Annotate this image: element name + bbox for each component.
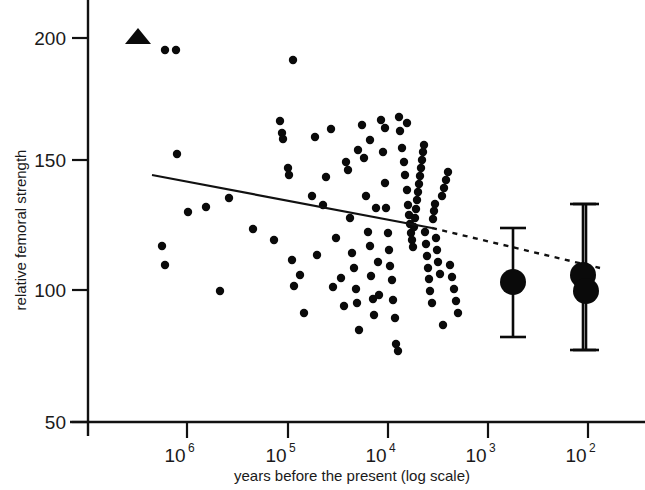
scatter-point (158, 242, 166, 250)
scatter-point (438, 192, 446, 200)
scatter-point (396, 127, 404, 135)
scatter-point (173, 150, 181, 158)
y-tick-label-50: 50 (45, 412, 66, 433)
y-tick-label-200: 200 (34, 28, 66, 49)
trend-line-solid (152, 175, 432, 228)
scatter-point (364, 228, 372, 236)
scatter-point (395, 113, 403, 121)
scatter-point (422, 240, 430, 248)
scatter-point (450, 285, 458, 293)
scatter-point (360, 154, 368, 162)
scatter-point (413, 196, 421, 204)
scatter-point (436, 270, 444, 278)
scatter-point (446, 261, 454, 269)
scatter-point (428, 299, 436, 307)
x-tick-exponent-1e6: 6 (188, 441, 195, 455)
scatter-point (421, 228, 429, 236)
scatter-point (398, 144, 406, 152)
scatter-point (425, 275, 433, 283)
scatter-point (452, 297, 460, 305)
scatter-point (433, 246, 441, 254)
scatter-point (161, 261, 169, 269)
scatter-point (388, 276, 396, 284)
x-tick-exponent-1e5: 5 (289, 441, 296, 455)
y-axis-ticks: 200 150 100 50 (34, 28, 88, 433)
scatter-point (279, 135, 287, 143)
x-tick-exponent-1e2: 2 (589, 441, 596, 455)
scatter-point (385, 246, 393, 254)
scatter-point (423, 252, 431, 260)
scatter-point (288, 256, 296, 264)
scatter-point (342, 158, 350, 166)
scatter-point (379, 148, 387, 156)
scatter-point (289, 56, 297, 64)
scatter-point (444, 168, 452, 176)
scatter-point (448, 273, 456, 281)
x-tick-base-1e5: 10 (265, 445, 286, 466)
x-tick-exponent-1e3: 3 (489, 441, 496, 455)
scatter-point (308, 192, 316, 200)
scatter-point (270, 236, 278, 244)
scatter-point (352, 285, 360, 293)
group-mean-marker (573, 278, 599, 304)
y-tick-label-100: 100 (34, 280, 66, 301)
scatter-point (374, 258, 382, 266)
scatter-point (348, 249, 356, 257)
scatter-point (400, 158, 408, 166)
scatter-plot-figure: relative femoral strength 200 150 100 50… (0, 0, 645, 490)
x-tick-label-1e6: 10 6 (164, 441, 195, 466)
scatter-point (354, 146, 362, 154)
scatter-point (313, 251, 321, 259)
x-tick-exponent-1e4: 4 (389, 441, 396, 455)
x-tick-label-1e5: 10 5 (265, 441, 296, 466)
scatter-points-layer (158, 46, 462, 355)
scatter-point (375, 291, 383, 299)
scatter-point (353, 299, 361, 307)
scatter-point (429, 215, 437, 223)
scatter-point (225, 194, 233, 202)
scatter-point (172, 46, 180, 54)
scatter-point (327, 125, 335, 133)
scatter-point (202, 203, 210, 211)
scatter-point (337, 274, 345, 282)
scatter-point (355, 326, 363, 334)
scatter-point (362, 192, 370, 200)
x-axis-title: years before the present (log scale) (234, 467, 470, 484)
scatter-point (366, 242, 374, 250)
x-axis-ticks: 10 6 10 5 10 4 10 3 10 2 (164, 422, 596, 466)
scatter-point (401, 171, 409, 179)
scatter-point (411, 214, 419, 222)
scatter-point (404, 201, 412, 209)
scatter-point (440, 184, 448, 192)
scatter-point (329, 283, 337, 291)
scatter-point (426, 287, 434, 295)
scatter-point (370, 311, 378, 319)
scatter-point (358, 121, 366, 129)
scatter-point (366, 136, 374, 144)
scatter-point (296, 271, 304, 279)
scatter-point (184, 208, 192, 216)
scatter-point (418, 156, 426, 164)
scatter-point (161, 46, 169, 54)
scatter-point (403, 186, 411, 194)
y-axis-title: relative femoral strength (12, 150, 29, 311)
scatter-point (386, 262, 394, 270)
scatter-point (432, 234, 440, 242)
scatter-point (389, 296, 397, 304)
scatter-point (409, 243, 417, 251)
scatter-point (414, 188, 422, 196)
scatter-point (439, 321, 447, 329)
scatter-point (415, 180, 423, 188)
x-tick-base-1e3: 10 (465, 445, 486, 466)
scatter-point (322, 173, 330, 181)
x-tick-base-1e4: 10 (365, 445, 386, 466)
triangle-marker (125, 28, 151, 44)
scatter-point (420, 141, 428, 149)
x-tick-label-1e3: 10 3 (465, 441, 496, 466)
scatter-point (391, 314, 399, 322)
x-tick-base-1e6: 10 (164, 445, 185, 466)
scatter-point (381, 179, 389, 187)
scatter-point (377, 116, 385, 124)
triangle-marker-layer (125, 28, 151, 44)
scatter-point (454, 309, 462, 317)
